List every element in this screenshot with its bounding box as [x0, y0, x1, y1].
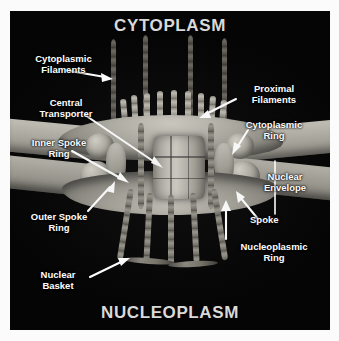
- label-nuclear-envelope: Nuclear Envelope: [244, 171, 326, 193]
- label-nucleoplasmic-ring: Nucleoplasmic Ring: [222, 241, 326, 263]
- central-transporter: [153, 136, 205, 199]
- label-inner-spoke-ring: Inner Spoke Ring: [16, 137, 102, 159]
- proximal-filament: [138, 123, 144, 209]
- label-proximal-filaments: Proximal Filaments: [228, 83, 320, 105]
- figure-plate: CYTOPLASM NUCLEOPLASM Cytoplasmic Filame…: [10, 11, 330, 330]
- label-spoke: Spoke: [250, 214, 312, 225]
- label-cytoplasmic-filaments: Cytoplasmic Filaments: [16, 53, 111, 75]
- npc-figure: CYTOPLASM NUCLEOPLASM Cytoplasmic Filame…: [0, 0, 339, 341]
- label-outer-spoke-ring: Outer Spoke Ring: [16, 211, 102, 233]
- label-central-transporter: Central Transporter: [22, 97, 110, 119]
- nucleoplasm-title: NUCLEOPLASM: [10, 303, 330, 323]
- transporter-seam: [170, 136, 172, 199]
- nuclear-basket-filament: [168, 195, 174, 265]
- label-nuclear-basket: Nuclear Basket: [24, 269, 92, 291]
- nuclear-basket-ring: [168, 260, 218, 269]
- cytoplasm-title: CYTOPLASM: [10, 16, 330, 36]
- transporter-seam: [188, 136, 190, 199]
- label-cytoplasmic-ring: Cytoplasmic Ring: [226, 119, 322, 141]
